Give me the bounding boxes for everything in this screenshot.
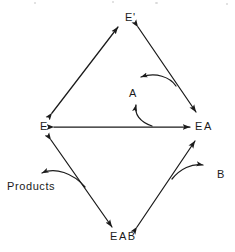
node-label-e: E (40, 121, 48, 132)
node-label-eab: EAB (110, 231, 137, 242)
edge-b-release-curve (172, 165, 203, 179)
edge-eab-to-ea (137, 141, 195, 227)
node-label-a: A (129, 88, 137, 99)
scan-artifact (226, 3, 228, 5)
node-label-ea: EA (195, 121, 213, 132)
scan-artifact (155, 2, 158, 4)
edge-a-bind-curve (136, 105, 152, 126)
reaction-scheme-diagram: E' (upper-left diagonal) --> EA (upper-r… (0, 0, 235, 252)
node-label-b: B (217, 169, 225, 180)
scan-artifact (112, 1, 114, 3)
node-label-products: Products (7, 181, 55, 192)
edge-a-release-curve (141, 75, 176, 86)
node-label-e-prime: E' (125, 12, 136, 23)
edge-e-to-eprime (52, 27, 118, 113)
edge-eprime-to-ea (138, 27, 196, 112)
scan-artifact (34, 2, 36, 4)
